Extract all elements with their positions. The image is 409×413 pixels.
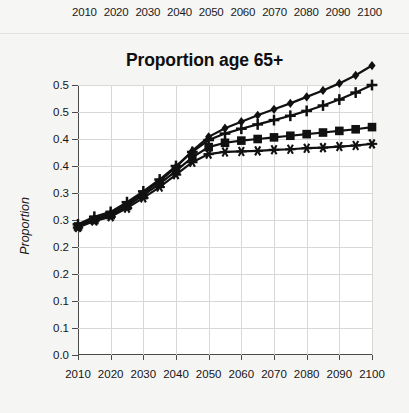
marker-plus bbox=[371, 80, 374, 91]
series-asterisk bbox=[73, 139, 377, 232]
marker-diamond bbox=[287, 99, 294, 108]
marker-diamond bbox=[270, 105, 277, 114]
marker-square bbox=[319, 128, 328, 137]
marker-square bbox=[302, 130, 311, 139]
x-tick-mark bbox=[307, 355, 308, 360]
cropped-xtick-label-2020: 2020 bbox=[104, 6, 129, 18]
x-tick-mark bbox=[241, 355, 242, 360]
marker-diamond bbox=[303, 92, 310, 101]
cropped-xtick-label-2090: 2090 bbox=[326, 6, 351, 18]
x-tick-label-2010: 2010 bbox=[65, 368, 91, 380]
marker-square bbox=[237, 136, 246, 145]
marker-plus bbox=[305, 106, 308, 117]
x-tick-label-2030: 2030 bbox=[131, 368, 157, 380]
marker-square bbox=[270, 133, 279, 142]
cropped-xtick-label-2010: 2010 bbox=[72, 6, 97, 18]
chart-title: Proportion age 65+ bbox=[0, 50, 409, 71]
x-tick-mark bbox=[274, 355, 275, 360]
marker-square bbox=[368, 123, 377, 132]
y-tick-label-0.5-9: 0.5 bbox=[53, 106, 69, 118]
marker-plus bbox=[256, 119, 259, 130]
marker-square bbox=[351, 125, 360, 134]
marker-square bbox=[286, 131, 295, 140]
y-tick-label-0.2-3: 0.2 bbox=[53, 268, 69, 280]
y-axis-title: Proportion bbox=[18, 181, 32, 271]
marker-plus bbox=[224, 128, 227, 139]
marker-diamond bbox=[319, 86, 326, 95]
x-tick-label-2070: 2070 bbox=[261, 368, 287, 380]
y-tick-label-0.5-10: 0.5 bbox=[53, 79, 69, 91]
plot-area: 0.00.10.10.20.20.30.30.40.40.50.5 201020… bbox=[78, 85, 372, 355]
cropped-chart-strip: 2010202020302040205020602070208020902100 bbox=[0, 0, 409, 33]
cropped-xtick-label-2100: 2100 bbox=[357, 6, 382, 18]
x-tick-mark bbox=[209, 355, 210, 360]
screenshot-root: 2010202020302040205020602070208020902100… bbox=[0, 0, 409, 413]
marker-diamond bbox=[352, 71, 359, 80]
x-tick-mark bbox=[176, 355, 177, 360]
marker-square bbox=[335, 127, 344, 136]
marker-plus bbox=[354, 87, 357, 98]
x-tick-mark bbox=[78, 355, 79, 360]
marker-square bbox=[221, 138, 230, 147]
x-tick-mark bbox=[339, 355, 340, 360]
marker-square bbox=[253, 135, 262, 144]
x-tick-label-2090: 2090 bbox=[327, 368, 353, 380]
cropped-xtick-label-2030: 2030 bbox=[135, 6, 160, 18]
series-square bbox=[74, 123, 377, 231]
marker-plus bbox=[240, 123, 243, 134]
series-asterisk-line bbox=[78, 144, 372, 228]
cropped-xtick-label-2080: 2080 bbox=[294, 6, 319, 18]
marker-plus bbox=[289, 110, 292, 121]
x-tick-mark bbox=[372, 355, 373, 360]
marker-plus bbox=[338, 94, 341, 105]
x-tick-label-2020: 2020 bbox=[98, 368, 124, 380]
cropped-xtick-label-2070: 2070 bbox=[262, 6, 287, 18]
x-tick-label-2050: 2050 bbox=[196, 368, 222, 380]
y-tick-label-0.3-6: 0.3 bbox=[53, 187, 69, 199]
x-tick-label-2100: 2100 bbox=[359, 368, 385, 380]
y-tick-label-0.4-7: 0.4 bbox=[53, 160, 69, 172]
series-plus bbox=[73, 80, 378, 230]
marker-plus bbox=[273, 115, 276, 126]
marker-diamond bbox=[336, 79, 343, 88]
cropped-xtick-label-2050: 2050 bbox=[199, 6, 224, 18]
x-tick-label-2080: 2080 bbox=[294, 368, 320, 380]
series-layer bbox=[78, 85, 372, 355]
y-tick-label-0.0-0: 0.0 bbox=[53, 349, 69, 361]
x-tick-label-2060: 2060 bbox=[229, 368, 255, 380]
y-tick-label-0.1-2: 0.1 bbox=[53, 295, 69, 307]
x-tick-mark bbox=[111, 355, 112, 360]
y-tick-label-0.3-5: 0.3 bbox=[53, 214, 69, 226]
marker-plus bbox=[322, 100, 325, 111]
y-tick-label-0.2-4: 0.2 bbox=[53, 241, 69, 253]
cropped-chart-xaxis-labels: 2010202020302040205020602070208020902100 bbox=[72, 6, 382, 18]
cropped-xtick-label-2060: 2060 bbox=[230, 6, 255, 18]
y-tick-label-0.4-8: 0.4 bbox=[53, 133, 69, 145]
marker-diamond bbox=[254, 111, 261, 120]
chart-panel: Proportion age 65+ Proportion 0.00.10.10… bbox=[0, 34, 409, 413]
y-tick-label-0.1-1: 0.1 bbox=[53, 322, 69, 334]
x-tick-mark bbox=[143, 355, 144, 360]
cropped-xtick-label-2040: 2040 bbox=[167, 6, 192, 18]
x-tick-label-2040: 2040 bbox=[163, 368, 189, 380]
